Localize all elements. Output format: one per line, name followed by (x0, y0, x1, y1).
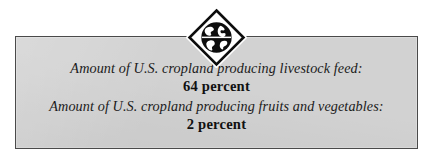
statistics-list: Amount of U.S. cropland producing livest… (16, 61, 417, 132)
stat-value-fruits-vegetables: 2 percent (16, 117, 417, 132)
stat-label-fruits-vegetables: Amount of U.S. cropland producing fruits… (16, 99, 417, 113)
globe-diamond-icon (186, 7, 247, 68)
stat-value-livestock-feed: 64 percent (16, 79, 417, 94)
